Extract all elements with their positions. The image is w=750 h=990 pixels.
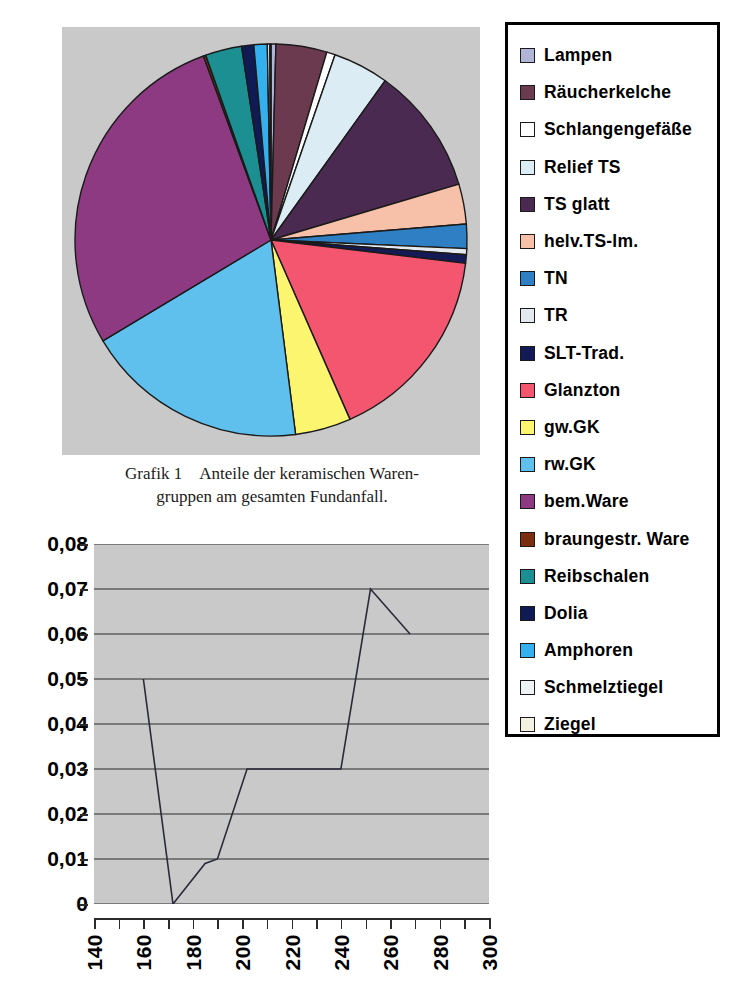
legend-item-label: Schmelztiegel [544,677,663,698]
x-axis-tick-mark [366,918,368,929]
legend-item[interactable]: Schlangengefäße [520,111,717,148]
y-axis-tick-label: 0,04 [2,712,88,736]
legend-swatch-icon [520,532,535,547]
x-axis-tick-mark [292,918,294,929]
legend-item-label: Amphoren [544,640,633,661]
legend-item[interactable]: Glanzton [520,372,717,409]
caption-text-line-2: gruppen am gesamten Fundanfall. [62,485,482,508]
legend-item-label: Räucherkelche [544,82,671,103]
legend-swatch-icon [520,122,535,137]
x-axis-tick-mark [489,918,491,929]
y-axis-tick-label: 0,05 [2,667,88,691]
legend-swatch-icon [520,494,535,509]
legend-item[interactable]: Amphoren [520,632,717,669]
y-axis-tick-label: 0 [2,892,88,916]
legend-swatch-icon [520,48,535,63]
legend-item-label: TR [544,305,568,326]
x-axis-tick-mark [440,918,442,929]
legend-item[interactable]: Reibschalen [520,558,717,595]
x-axis-tick-label: 200 [231,934,255,971]
legend-item-label: Lampen [544,45,612,66]
legend-item[interactable]: Lampen [520,37,717,74]
caption-figure-number: Grafik 1 [125,464,182,483]
x-axis-tick-label: 260 [379,934,403,971]
legend-item[interactable]: helv.TS-lm. [520,223,717,260]
x-axis-tick-mark [267,918,269,929]
legend-swatch-icon [520,717,535,732]
y-axis-tick-label: 0,08 [2,532,88,556]
legend-item-label: Reibschalen [544,566,649,587]
legend-swatch-icon [520,234,535,249]
legend-item-label: Ziegel [544,714,596,735]
y-axis-tick-mark [80,724,88,726]
y-axis-tick-mark [80,859,88,861]
x-axis-tick-mark [341,918,343,929]
legend-item-label: TN [544,268,568,289]
line-chart-x-axis: 140160180200220240260280300 [94,918,489,990]
legend-item-label: bem.Ware [544,491,629,512]
legend-swatch-icon [520,643,535,658]
legend-item[interactable]: TS glatt [520,186,717,223]
y-axis-tick-label: 0,01 [2,847,88,871]
x-axis-tick-mark [415,918,417,929]
legend-item[interactable]: braungestr. Ware [520,520,717,557]
legend-swatch-icon [520,308,535,323]
x-axis-tick-mark [390,918,392,929]
legend-item[interactable]: bem.Ware [520,483,717,520]
legend-swatch-icon [520,569,535,584]
legend-swatch-icon [520,680,535,695]
x-axis-tick-label: 300 [478,934,502,971]
legend-item[interactable]: Relief TS [520,149,717,186]
x-axis-tick-mark [94,918,96,929]
legend-item-label: Dolia [544,603,588,624]
legend-swatch-icon [520,271,535,286]
legend-item[interactable]: Schmelztiegel [520,669,717,706]
y-axis-tick-mark [80,814,88,816]
x-axis-tick-label: 220 [281,934,305,971]
legend-item-label: helv.TS-lm. [544,231,638,252]
x-axis-tick-label: 180 [182,934,206,971]
pie-chart-plot-area [62,27,480,455]
legend-item[interactable]: Räucherkelche [520,74,717,111]
legend-item-label: SLT-Trad. [544,343,624,364]
x-axis-tick-mark [168,918,170,929]
legend-item-label: braungestr. Ware [544,529,690,550]
y-axis-tick-mark [80,589,88,591]
pie-chart-legend: LampenRäucherkelcheSchlangengefäßeRelief… [505,22,720,737]
x-axis-tick-mark [217,918,219,929]
x-axis-tick-mark [193,918,195,929]
legend-item-label: rw.GK [544,454,596,475]
legend-item[interactable]: TR [520,297,717,334]
legend-item[interactable]: rw.GK [520,446,717,483]
legend-item[interactable]: Dolia [520,595,717,632]
legend-item[interactable]: Ziegel [520,706,717,743]
legend-item[interactable]: gw.GK [520,409,717,446]
x-axis-tick-label: 140 [83,934,107,971]
legend-item[interactable]: TN [520,260,717,297]
x-axis-tick-mark [242,918,244,929]
x-axis-tick-mark [143,918,145,929]
legend-swatch-icon [520,346,535,361]
y-axis-tick-mark [80,904,88,906]
x-axis-tick-mark [464,918,466,929]
legend-item-label: Schlangengefäße [544,119,692,140]
legend-swatch-icon [520,420,535,435]
line-chart-y-axis: 00,010,020,030,040,050,060,070,08 [0,544,88,904]
legend-swatch-icon [520,160,535,175]
legend-item[interactable]: SLT-Trad. [520,335,717,372]
y-axis-tick-label: 0,02 [2,802,88,826]
pie-chart-svg [62,27,480,455]
x-axis-line [94,918,489,920]
x-axis-tick-label: 160 [132,934,156,971]
y-axis-tick-mark [80,634,88,636]
y-axis-tick-mark [80,679,88,681]
x-axis-tick-label: 280 [429,934,453,971]
legend-swatch-icon [520,85,535,100]
legend-item-label: TS glatt [544,194,610,215]
legend-swatch-icon [520,606,535,621]
caption-text-line-1: Anteile der keramischen Waren- [199,464,419,483]
y-axis-tick-mark [80,769,88,771]
line-chart-svg [94,544,489,904]
line-chart: 00,010,020,030,040,050,060,070,08 140160… [0,520,510,990]
y-axis-tick-label: 0,03 [2,757,88,781]
